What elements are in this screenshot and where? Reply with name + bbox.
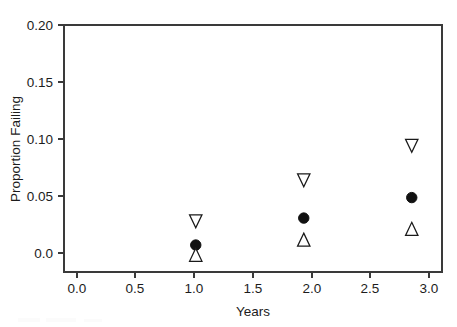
data-point-circle	[407, 192, 417, 202]
y-axis-title: Proportion Failing	[8, 96, 23, 202]
y-tick-label: 0.10	[27, 132, 53, 147]
x-tick-label: 1.0	[185, 281, 204, 296]
x-tick-label: 3.0	[420, 281, 439, 296]
y-tick-label: 0.0	[34, 246, 53, 261]
chart-figure: 0.20 0.15 0.10 0.05 0.0 0.0 0.5 1.0 1.5 …	[0, 0, 457, 327]
x-tick-label: 0.5	[126, 281, 145, 296]
data-point-circle	[299, 213, 309, 223]
y-tick-label: 0.15	[27, 75, 53, 90]
x-tick-label: 2.0	[303, 281, 322, 296]
scatter-plot: 0.20 0.15 0.10 0.05 0.0 0.0 0.5 1.0 1.5 …	[0, 0, 457, 327]
x-tick-label: 2.5	[361, 281, 380, 296]
figure-background	[0, 0, 457, 327]
x-tick-label: 1.5	[244, 281, 263, 296]
y-tick-label: 0.20	[27, 18, 53, 33]
y-tick-label: 0.05	[27, 189, 53, 204]
x-tick-label: 0.0	[68, 281, 87, 296]
x-axis-title: Years	[236, 304, 270, 319]
